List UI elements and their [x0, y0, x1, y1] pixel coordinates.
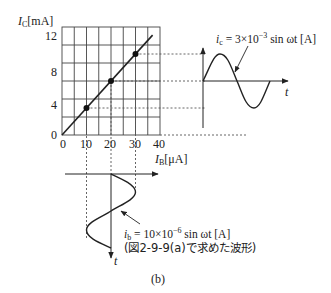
input-wave-equation: ib = 10×10−6 sin ωt [A] — [124, 227, 230, 242]
y-tick-8: 8 — [51, 66, 57, 78]
transfer-line — [62, 35, 153, 135]
output-time-label: t — [285, 86, 288, 98]
x-axis-unit: [μA] — [164, 152, 187, 166]
y-tick-0: 0 — [51, 129, 57, 141]
ic-coefficient: = 3×10 — [223, 33, 259, 45]
y-axis-unit: [mA] — [27, 14, 53, 28]
output-wave-equation: ic = 3×10−3 sin ωt [A] — [216, 32, 316, 47]
output-wave — [203, 46, 288, 128]
ib-coefficient: = 10×10 — [131, 228, 173, 240]
x-tick-40: 40 — [153, 138, 165, 150]
x-tick-30: 30 — [129, 138, 141, 150]
x-tick-0: 0 — [60, 138, 66, 150]
x-axis-label: IB[μA] — [155, 153, 187, 167]
y-axis-label: IC[mA] — [18, 15, 53, 29]
input-wave-note: (図2-9-9(a)で求めた波形) — [124, 243, 256, 255]
ic-suffix: sin ωt [A] — [267, 33, 316, 45]
y-tick-4: 4 — [51, 99, 57, 111]
x-tick-20: 20 — [104, 138, 116, 150]
input-time-label: t — [114, 255, 117, 267]
y-tick-12: 12 — [45, 30, 57, 42]
ic-exponent: −3 — [259, 31, 268, 40]
ib-suffix: sin ωt [A] — [181, 228, 230, 240]
figure-caption: (b) — [151, 273, 165, 285]
x-tick-10: 10 — [80, 138, 92, 150]
